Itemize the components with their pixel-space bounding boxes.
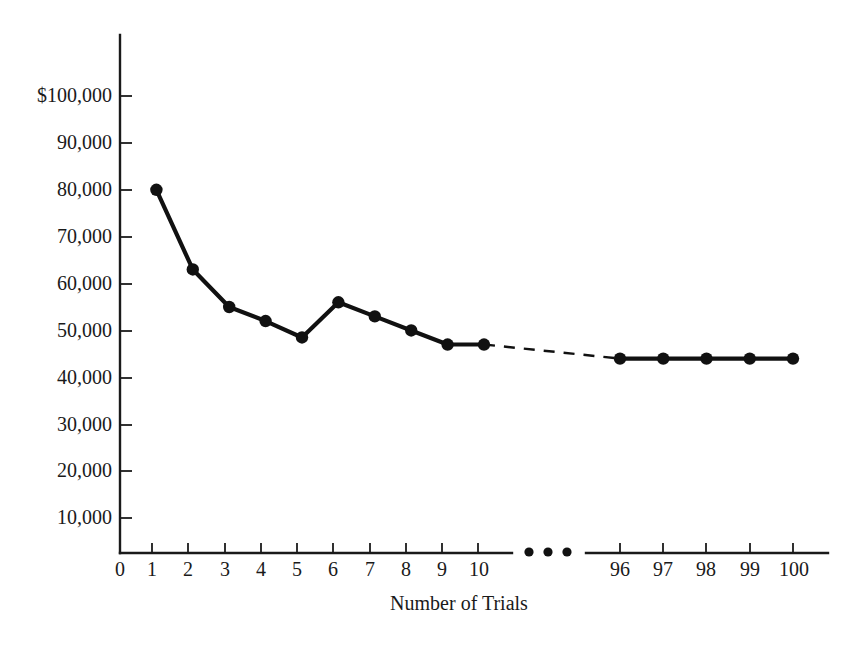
data-point-marker xyxy=(223,301,235,313)
data-point-marker xyxy=(614,352,626,364)
y-tick-label-60000: 60,000 xyxy=(57,272,112,294)
y-tick-label-100000: $100,000 xyxy=(37,84,112,106)
x-tick-label-3: 3 xyxy=(220,558,230,580)
x-tick-label-97: 97 xyxy=(653,558,673,580)
y-tick-label-90000: 90,000 xyxy=(57,131,112,153)
data-point-marker xyxy=(369,310,381,322)
x-tick-label-100: 100 xyxy=(779,558,809,580)
x-tick-label-8: 8 xyxy=(401,558,411,580)
x-tick-label-4: 4 xyxy=(256,558,266,580)
x-tick-label-0: 0 xyxy=(115,558,125,580)
data-point-marker xyxy=(405,324,417,336)
data-point-marker xyxy=(441,338,453,350)
x-tick-label-10: 10 xyxy=(469,558,489,580)
data-point-marker xyxy=(787,352,799,364)
data-point-marker xyxy=(187,263,199,275)
x-tick-label-98: 98 xyxy=(696,558,716,580)
x-axis-title: Number of Trials xyxy=(390,592,528,614)
y-tick-label-70000: 70,000 xyxy=(57,225,112,247)
data-point-marker xyxy=(332,296,344,308)
data-point-marker xyxy=(259,315,271,327)
x-tick-label-99: 99 xyxy=(740,558,760,580)
y-tick-label-30000: 30,000 xyxy=(57,413,112,435)
y-tick-label-40000: 40,000 xyxy=(57,366,112,388)
x-tick-label-2: 2 xyxy=(183,558,193,580)
y-tick-label-20000: 20,000 xyxy=(57,459,112,481)
x-tick-label-96: 96 xyxy=(610,558,630,580)
y-tick-label-50000: 50,000 xyxy=(57,319,112,341)
data-point-marker xyxy=(478,338,490,350)
data-point-marker xyxy=(657,352,669,364)
x-tick-label-7: 7 xyxy=(365,558,375,580)
x-tick-label-9: 9 xyxy=(437,558,447,580)
x-tick-label-5: 5 xyxy=(292,558,302,580)
data-point-marker xyxy=(744,352,756,364)
x-tick-label-1: 1 xyxy=(147,558,157,580)
y-tick-label-10000: 10,000 xyxy=(57,506,112,528)
chart-container: $100,000 90,000 80,000 70,000 60,000 50,… xyxy=(0,0,868,645)
x-tick-label-6: 6 xyxy=(328,558,338,580)
y-tick-label-80000: 80,000 xyxy=(57,178,112,200)
data-point-marker xyxy=(150,184,162,196)
axis-break-ellipsis xyxy=(524,547,571,556)
data-point-marker xyxy=(296,331,308,343)
line-chart: $100,000 90,000 80,000 70,000 60,000 50,… xyxy=(0,0,868,645)
data-point-marker xyxy=(700,352,712,364)
